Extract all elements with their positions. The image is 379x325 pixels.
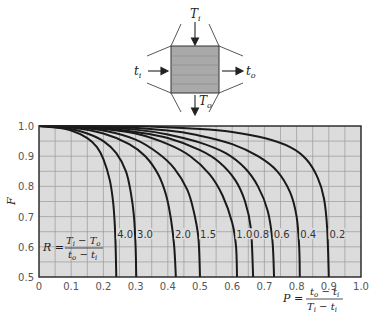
correction-factor-chart: Ti ti to To 4.03.02.01.51.00.80.60.40.2 … <box>0 0 379 325</box>
y-tick-label: 1.0 <box>18 121 34 132</box>
x-tick-label: 0.6 <box>224 281 240 292</box>
y-tick-label: 0.9 <box>18 151 34 162</box>
x-tick-label: 1.0 <box>353 281 369 292</box>
y-axis-label: F <box>5 197 18 206</box>
svg-text:to − ti: to − ti <box>310 286 339 299</box>
cold-inlet-label: ti <box>134 64 142 80</box>
curve-label-r: 4.0 <box>117 229 133 240</box>
curve-label-r: 0.6 <box>274 229 290 240</box>
x-tick-label: 0 <box>36 281 42 292</box>
hot-inlet-label: Ti <box>190 7 201 23</box>
x-tick-label: 0.8 <box>289 281 305 292</box>
svg-text:P =: P = <box>282 292 303 305</box>
y-tick-label: 0.8 <box>18 181 34 192</box>
curve-label-r: 0.8 <box>253 229 269 240</box>
curve-label-r: 0.4 <box>300 229 316 240</box>
x-tick-label: 0.5 <box>192 281 208 292</box>
svg-text:R =: R = <box>42 241 64 254</box>
curve-label-r: 2.0 <box>175 229 191 240</box>
curve-label-r: 1.0 <box>236 229 252 240</box>
cold-outlet-label: to <box>246 64 256 80</box>
y-tick-label: 0.6 <box>18 242 34 253</box>
y-tick-label: 0.7 <box>18 212 34 223</box>
curve-label-r: 3.0 <box>137 229 153 240</box>
x-tick-label: 0.1 <box>63 281 79 292</box>
x-tick-label: 0.4 <box>160 281 176 292</box>
x-tick-label: 0.2 <box>95 281 111 292</box>
x-tick-label: 0.3 <box>128 281 144 292</box>
svg-text:Ti − ti: Ti − ti <box>307 301 337 314</box>
exchanger-diagram: Ti ti to To <box>134 7 256 115</box>
y-tick-label: 0.5 <box>18 272 34 283</box>
exchanger-core <box>171 46 219 93</box>
hot-outlet-label: To <box>199 94 212 110</box>
curve-label-r: 1.5 <box>200 229 216 240</box>
y-axis-ticks: 1.00.90.80.70.60.5 <box>18 121 34 283</box>
x-tick-label: 0.7 <box>256 281 272 292</box>
curve-label-r: 0.2 <box>329 229 345 240</box>
